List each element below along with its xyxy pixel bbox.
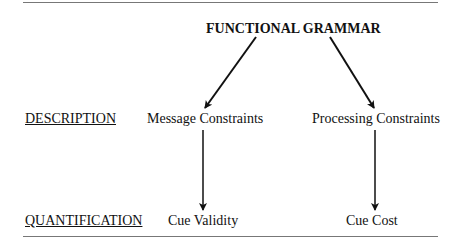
bottom-rule [23, 236, 438, 237]
arrow-to-processing-constraints [330, 37, 374, 108]
arrow-to-message-constraints [205, 37, 256, 108]
arrows-layer [0, 0, 455, 249]
